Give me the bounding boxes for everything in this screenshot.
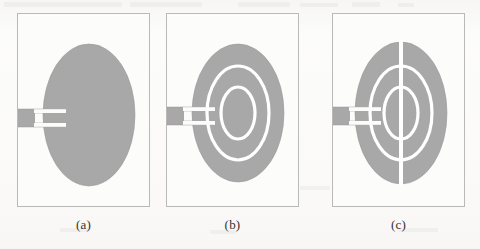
feed-strip-core-b xyxy=(167,111,184,121)
panel-b-drawing xyxy=(167,14,299,207)
feed-strip-core-c xyxy=(333,111,350,121)
bleed-through-mark xyxy=(130,2,202,7)
panel-b xyxy=(166,13,299,207)
feed-notch-lower-c xyxy=(349,121,381,125)
caption-panel-b: (b) xyxy=(166,217,299,233)
feed-notch-upper-a xyxy=(34,109,66,113)
feed-notch-upper-b xyxy=(183,107,215,111)
feed-strip-core-a xyxy=(18,113,35,123)
caption-panel-c: (c) xyxy=(332,217,465,233)
panel-a-drawing xyxy=(18,14,150,207)
panel-c xyxy=(332,13,465,207)
feed-notch-lower-a xyxy=(34,123,66,127)
bleed-through-mark xyxy=(300,3,338,7)
elliptical-patch-a xyxy=(43,44,135,186)
feed-notch-upper-c xyxy=(349,107,381,111)
panel-a xyxy=(17,13,150,207)
bleed-through-mark xyxy=(300,186,330,190)
vertical-slot-c xyxy=(399,40,403,186)
panel-c-drawing xyxy=(333,14,465,207)
bleed-through-mark xyxy=(238,2,290,7)
bleed-through-mark xyxy=(398,3,414,7)
feed-notch-lower-b xyxy=(183,121,215,125)
bleed-through-mark xyxy=(352,2,380,7)
figure-root: (a) (b) (c) xyxy=(0,0,480,249)
bleed-through-mark xyxy=(4,2,122,7)
caption-panel-a: (a) xyxy=(17,217,150,233)
